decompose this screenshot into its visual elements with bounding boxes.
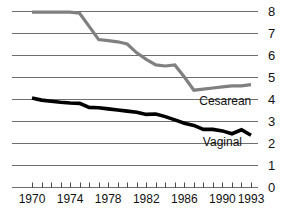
x-tick-label-1986: 1986 xyxy=(171,192,198,206)
y-tick-label-5: 5 xyxy=(268,70,275,85)
y-tick-label-2: 2 xyxy=(268,136,275,151)
y-tick-label-4: 4 xyxy=(268,92,275,107)
y-tick-label-1: 1 xyxy=(268,158,275,173)
y-tick-label-6: 6 xyxy=(268,48,275,63)
x-tick-label-1970: 1970 xyxy=(19,192,46,206)
series-label-vaginal: Vaginal xyxy=(203,135,242,149)
x-tick-label-1990: 1990 xyxy=(209,192,236,206)
series-label-cesarean: Cesarean xyxy=(199,94,251,108)
y-tick-label-7: 7 xyxy=(268,26,275,41)
x-tick-label-1978: 1978 xyxy=(95,192,122,206)
y-tick-label-3: 3 xyxy=(268,114,275,129)
x-tick-label-1982: 1982 xyxy=(133,192,160,206)
y-axis-tick-labels: 876543210 xyxy=(268,4,275,195)
x-tick-label-1974: 1974 xyxy=(57,192,84,206)
chart-container: 876543210 1970197419781982198619901993 C… xyxy=(0,0,295,210)
line-chart: 876543210 1970197419781982198619901993 C… xyxy=(0,0,295,210)
y-tick-label-8: 8 xyxy=(268,4,275,19)
y-tick-label-0: 0 xyxy=(268,180,275,195)
x-tick-label-1993: 1993 xyxy=(238,192,265,206)
